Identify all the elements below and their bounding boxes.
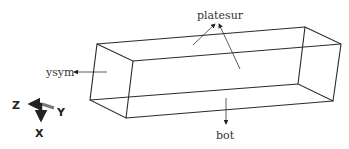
box-edge-bottom-back <box>90 84 298 100</box>
box-right-face <box>298 27 341 101</box>
axis-x-label: X <box>35 127 44 140</box>
label-platesur: platesur <box>197 9 244 22</box>
axis-z-label: Z <box>12 99 20 112</box>
label-ysym-group: ysym <box>45 66 107 79</box>
box-left-face <box>90 44 133 118</box>
box-edge-top-back <box>97 27 305 44</box>
axis-y-label: Y <box>56 106 66 119</box>
axis-triad: Z Y X <box>12 99 66 140</box>
box-wireframe <box>90 27 341 118</box>
diagram-canvas: platesur ysym bot Z Y X <box>0 0 349 149</box>
box-edge-bottom-front <box>126 101 333 118</box>
box-edge-top-front <box>133 44 341 61</box>
label-ysym: ysym <box>45 66 75 79</box>
axis-y-arrow <box>42 104 54 108</box>
label-bot-group: bot <box>216 98 235 142</box>
platesur-leader-2 <box>219 24 240 69</box>
label-platesur-group: platesur <box>193 9 244 69</box>
label-bot: bot <box>216 129 235 142</box>
